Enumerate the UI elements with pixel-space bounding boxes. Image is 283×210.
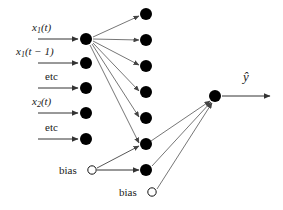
hidden-node-7[interactable] bbox=[140, 164, 152, 176]
output-bias-node[interactable] bbox=[148, 188, 156, 196]
output-node[interactable] bbox=[209, 90, 221, 102]
input-node-group bbox=[80, 33, 92, 145]
input-bias-node[interactable] bbox=[88, 166, 96, 174]
input-label-3: etc bbox=[45, 71, 58, 82]
hidden-node-group bbox=[140, 8, 152, 176]
input-node-2[interactable] bbox=[80, 57, 92, 69]
hidden-node-2[interactable] bbox=[140, 34, 152, 46]
edge-input1-hidden1 bbox=[93, 16, 139, 37]
bias-edge-group bbox=[97, 146, 139, 170]
input-node-3[interactable] bbox=[80, 82, 92, 94]
edge-input1-hidden6 bbox=[90, 45, 139, 143]
edge-input1-hidden4 bbox=[93, 43, 139, 91]
output-bias-label: bias bbox=[119, 187, 137, 198]
edge-inputbias-hidden6 bbox=[97, 146, 139, 168]
hidden-node-1[interactable] bbox=[140, 8, 152, 20]
input-to-hidden-edge-group bbox=[90, 16, 139, 143]
edge-input1-hidden2 bbox=[93, 39, 139, 40]
input-label-1: x1(t) bbox=[32, 22, 51, 35]
output-label: ŷ bbox=[243, 70, 249, 83]
hidden-to-output-edge-group bbox=[151, 101, 212, 189]
input-label-5: etc bbox=[45, 122, 58, 133]
input-node-1[interactable] bbox=[80, 33, 92, 45]
edge-input1-hidden3 bbox=[93, 41, 139, 65]
input-node-4[interactable] bbox=[80, 107, 92, 119]
input-label-2: x1(t − 1) bbox=[16, 46, 54, 59]
hidden-node-6[interactable] bbox=[140, 138, 152, 150]
hidden-node-4[interactable] bbox=[140, 86, 152, 98]
input-node-5[interactable] bbox=[80, 133, 92, 145]
neural-network-diagram: x1(t) x1(t − 1) etc x2(t) etc bias bias … bbox=[0, 0, 283, 210]
hidden-node-3[interactable] bbox=[140, 60, 152, 72]
edge-outputbias-output bbox=[157, 103, 212, 189]
hidden-node-5[interactable] bbox=[140, 112, 152, 124]
input-label-4: x2(t) bbox=[32, 96, 51, 109]
edge-input1-hidden5 bbox=[92, 44, 139, 117]
input-bias-label: bias bbox=[59, 165, 77, 176]
